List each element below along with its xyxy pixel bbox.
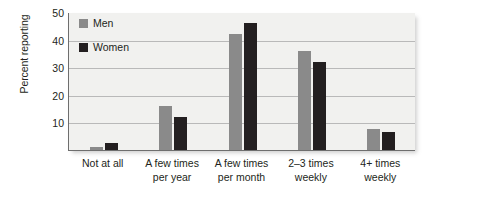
bar-men: [367, 129, 380, 150]
x-axis-category-labels: Not at allA few timesper yearA few times…: [68, 156, 415, 196]
bar-women: [105, 143, 118, 150]
legend-label-men: Men: [93, 17, 113, 30]
bar-group: [229, 13, 257, 150]
x-category-label-line1: Not at all: [82, 157, 123, 169]
bar-women: [382, 132, 395, 150]
bar-group: [298, 13, 326, 150]
bar-group: [159, 13, 187, 150]
y-tick-50: 50: [38, 8, 64, 18]
legend-item-women: Women: [79, 41, 129, 54]
x-category-label-line1: A few times: [145, 157, 199, 169]
bar-chart-figure: Percent reporting 50 40 30 20 10 Men Wom…: [0, 0, 481, 198]
y-tick-20: 20: [38, 91, 64, 101]
x-category-label-line1: 4+ times: [360, 157, 400, 169]
y-axis-title: Percent reporting: [17, 0, 31, 114]
x-category-label-line2: weekly: [332, 170, 428, 184]
bar-men: [229, 34, 242, 150]
y-tick-10: 10: [38, 118, 64, 128]
bar-men: [159, 106, 172, 150]
legend-item-men: Men: [79, 17, 129, 30]
y-tick-40: 40: [38, 36, 64, 46]
legend-swatch-women-icon: [79, 43, 88, 52]
y-tick-30: 30: [38, 63, 64, 73]
bar-women: [244, 23, 257, 150]
plot-panel: Men Women: [68, 13, 415, 151]
legend-label-women: Women: [93, 41, 129, 54]
x-category-label-line1: 2–3 times: [288, 157, 334, 169]
x-category-label-line1: A few times: [215, 157, 269, 169]
bar-women: [174, 117, 187, 150]
bar-women: [313, 62, 326, 150]
bar-group: [367, 13, 395, 150]
x-category-label: 4+ timesweekly: [332, 156, 428, 184]
chart-legend: Men Women: [79, 17, 129, 65]
bar-men: [90, 147, 103, 150]
bar-men: [298, 51, 311, 150]
legend-swatch-men-icon: [79, 19, 88, 28]
